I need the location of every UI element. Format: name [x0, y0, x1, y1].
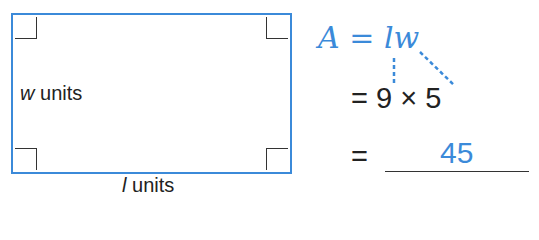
substitution-line: = 9 × 5	[351, 82, 441, 115]
answer-blank-line	[385, 171, 529, 172]
substitution-equals: =	[351, 82, 368, 114]
result-equals: =	[351, 140, 368, 173]
substitution-expression: 9 × 5	[376, 82, 441, 114]
answer-value: 45	[440, 136, 473, 170]
